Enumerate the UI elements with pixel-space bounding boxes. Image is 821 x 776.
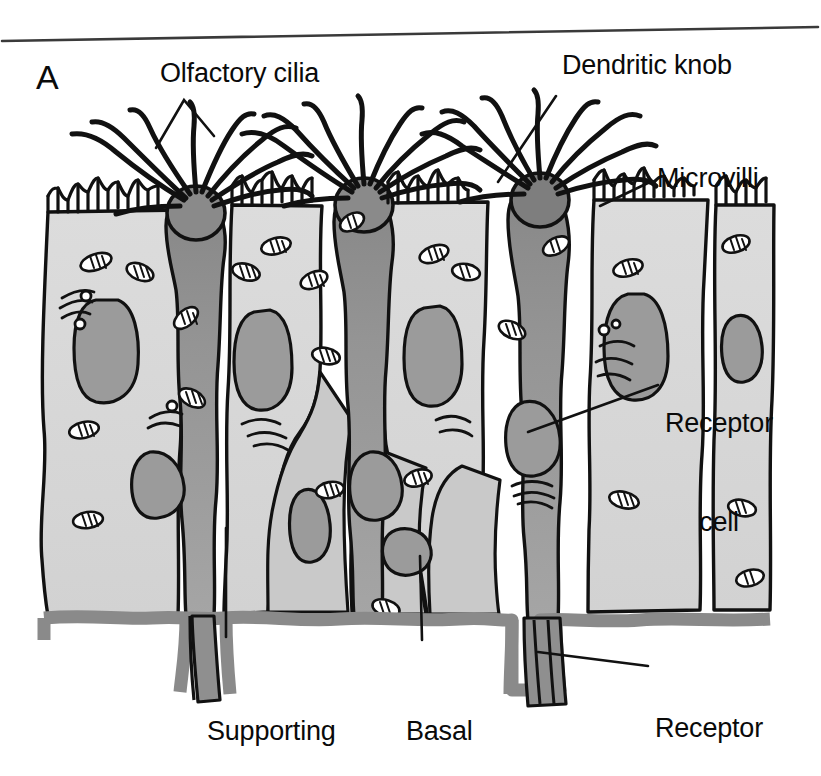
nucleus <box>234 310 292 410</box>
label-receptor-cell: Receptor cell <box>665 341 773 605</box>
label-receptor-cell-line2: cell <box>665 506 773 539</box>
nucleus <box>404 306 462 406</box>
label-receptor-axons-line1: Receptor <box>655 712 763 745</box>
nucleus <box>290 489 331 562</box>
basal-cell <box>429 466 500 614</box>
label-supporting-cell: Supporting cell <box>207 649 336 776</box>
nucleus <box>506 401 561 476</box>
label-olfactory-cilia: Olfactory cilia <box>160 58 319 89</box>
figure-root: A Olfactory cilia Dendritic knob Microvi… <box>0 0 821 776</box>
label-basal-cell-line1: Basal <box>406 715 473 748</box>
nucleus <box>383 529 432 575</box>
label-microvilli: Microvilli <box>657 163 759 194</box>
nucleus <box>74 300 138 403</box>
label-receptor-axons: Receptor axons <box>655 646 763 776</box>
label-dendritic-knob: Dendritic knob <box>562 50 732 81</box>
label-receptor-cell-line1: Receptor <box>665 407 773 440</box>
label-basal-cell: Basal cell <box>406 649 473 776</box>
nucleus <box>350 452 403 520</box>
leader-olfactory-cilia <box>156 100 214 148</box>
panel-letter: A <box>36 58 59 97</box>
label-supporting-cell-line1: Supporting <box>207 715 336 748</box>
top-rule <box>2 27 818 41</box>
